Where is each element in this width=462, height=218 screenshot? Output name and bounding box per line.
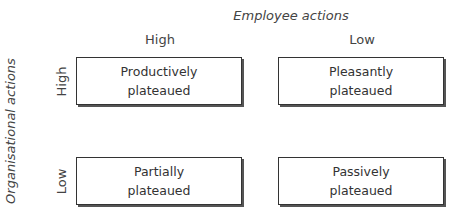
cell-line1: Productively: [121, 64, 198, 79]
row-label-low: Low: [54, 157, 69, 207]
column-label-high: High: [76, 32, 244, 47]
cell-line1: Passively: [332, 164, 389, 179]
y-axis-title: Organisational actions: [3, 31, 21, 218]
quadrant-partially-plateaued: Partiallyplateaued: [76, 157, 242, 205]
column-label-low: Low: [278, 32, 446, 47]
x-axis-title: Employee actions: [0, 8, 462, 23]
cell-line2: plateaued: [330, 183, 393, 198]
cell-line2: plateaued: [330, 83, 393, 98]
quadrant-productively-plateaued: Productivelyplateaued: [76, 57, 242, 105]
cell-line1: Pleasantly: [329, 64, 393, 79]
cell-line2: plateaued: [128, 183, 191, 198]
quadrant-passively-plateaued: Passivelyplateaued: [278, 157, 444, 205]
quadrant-pleasantly-plateaued: Pleasantlyplateaued: [278, 57, 444, 105]
row-label-high: High: [54, 57, 69, 107]
cell-line2: plateaued: [128, 83, 191, 98]
cell-line1: Partially: [134, 164, 184, 179]
